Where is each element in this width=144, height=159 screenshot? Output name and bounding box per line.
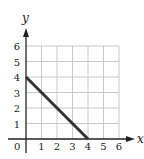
- x-axis-label: x: [137, 132, 144, 146]
- y-tick-label: 1: [14, 119, 20, 130]
- y-tick-label: 6: [14, 41, 20, 52]
- y-tick-label: 5: [14, 57, 20, 68]
- line-chart: x y 0 123456 123456: [0, 0, 144, 159]
- x-axis-arrow-icon: [126, 136, 135, 142]
- x-tick-label: 6: [116, 141, 122, 152]
- x-tick-label: 2: [54, 141, 60, 152]
- x-tick-label: 4: [85, 141, 91, 152]
- y-axis-arrow-icon: [23, 28, 29, 37]
- x-tick-label: 1: [38, 141, 44, 152]
- y-tick-labels: 123456: [14, 41, 20, 130]
- x-tick-labels: 123456: [38, 141, 122, 152]
- y-axis-label: y: [21, 11, 29, 25]
- axes: x y 0: [8, 11, 144, 153]
- x-tick-label: 3: [69, 141, 75, 152]
- origin-label: 0: [14, 141, 20, 152]
- y-tick-label: 3: [14, 88, 20, 99]
- x-tick-label: 5: [100, 141, 106, 152]
- y-tick-label: 4: [14, 72, 20, 83]
- y-tick-label: 2: [14, 103, 20, 114]
